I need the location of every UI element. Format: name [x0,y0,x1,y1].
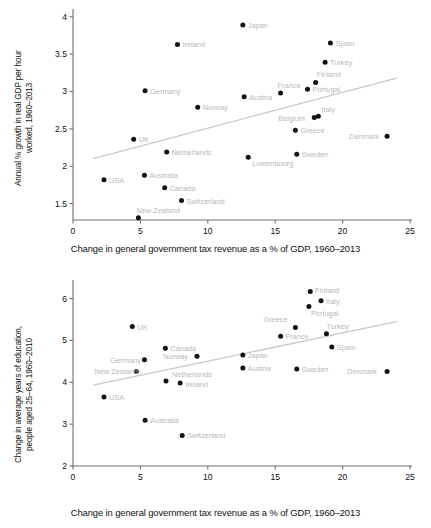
scatter-plot-top: 1.522.533.540510152025USAUKNew ZealandAu… [0,0,431,264]
data-point-label: Finland [317,70,341,79]
x-tick-label: 0 [71,472,76,482]
data-point [143,88,148,93]
data-point-label: Portugal [313,85,341,94]
data-point [130,324,135,329]
data-point [294,152,299,157]
data-point-label: Australia [150,416,180,425]
data-point [163,346,168,351]
y-tick-label: 4 [62,377,67,387]
x-axis-label-top: Change in general government tax revenue… [0,243,431,254]
data-point-label: Ireland [182,40,205,49]
data-point-label: Canada [170,184,197,193]
data-point-label: Norway [203,103,228,112]
data-point-label: Turkey [330,58,353,67]
x-tick-label: 20 [338,472,348,482]
data-point [385,134,390,139]
x-tick-label: 0 [71,226,76,236]
data-point [179,198,184,203]
scatter-plot-bottom: 234560510152025USAUKNew ZealandGermanyAu… [0,264,431,528]
data-point [143,418,148,423]
data-point [319,298,324,303]
data-point [329,345,334,350]
data-point-label: Denmark [349,132,379,141]
data-point [195,354,200,359]
y-tick-label: 1.5 [55,199,67,209]
data-point-label: France [286,332,309,341]
data-point [131,137,136,142]
data-point [293,128,298,133]
data-point [102,177,107,182]
data-point [240,366,245,371]
data-point [293,325,298,330]
data-point-label: Finland [315,286,339,295]
x-tick-label: 10 [203,226,213,236]
data-point [278,90,283,95]
data-point-label: Austria [248,364,272,373]
data-point-label: Greece [300,126,324,135]
data-point-label: USA [109,393,124,402]
data-point-label: Italy [321,105,335,114]
x-tick-label: 5 [138,226,143,236]
x-axis-label-bottom: Change in general government tax revenue… [0,507,431,518]
data-point [195,105,200,110]
x-tick-label: 10 [203,472,213,482]
y-tick-label: 3 [62,86,67,96]
data-point [164,379,169,384]
y-tick-label: 3 [62,419,67,429]
y-tick-label: 2 [62,161,67,171]
x-tick-label: 15 [270,226,280,236]
data-point [142,173,147,178]
data-point-label: Spain [337,343,356,352]
data-point-label: USA [109,176,124,185]
data-point-label: Netherlands [172,370,212,379]
data-point-label: Germany [150,87,181,96]
data-point-label: Sweden [302,150,329,159]
data-point-label: New Zealand [94,367,138,376]
x-tick-label: 25 [405,226,415,236]
data-point-label: Australia [149,171,179,180]
data-point [316,114,321,119]
data-point [175,42,180,47]
data-point-label: Italy [326,297,340,306]
data-point-label: Portugal [311,309,339,318]
data-point-label: UK [137,323,147,332]
data-point-label: UK [139,135,149,144]
data-point-label: Switzerland [187,431,225,440]
data-point [246,155,251,160]
y-tick-label: 5 [62,335,67,345]
data-point-label: France [278,81,301,90]
data-point [294,366,299,371]
y-tick-label: 6 [62,294,67,304]
y-tick-label: 2.5 [55,124,67,134]
data-point [136,215,141,220]
chart-top: Annual % growth in real GDP per hour wor… [0,0,431,264]
data-point [162,185,167,190]
data-point-label: Sweden [302,365,329,374]
data-point-label: Austria [249,93,273,102]
y-tick-label: 2 [62,461,67,471]
data-point-label: Germany [110,356,141,365]
data-point [180,433,185,438]
data-point [324,331,329,336]
data-point-label: Switzerland [187,197,225,206]
data-point [240,353,245,358]
data-point [164,149,169,154]
data-point [328,40,333,45]
data-point [305,87,310,92]
data-point [240,22,245,27]
data-point [385,369,390,374]
data-point-label: Belgium [278,114,305,123]
x-tick-label: 15 [270,472,280,482]
data-point-label: Denmark [347,367,377,376]
data-point-label: Spain [335,39,354,48]
data-point-label: New Zealand [136,206,180,215]
y-tick-label: 3.5 [55,49,67,59]
data-point [308,289,313,294]
y-tick-label: 4 [62,12,67,22]
data-point [178,381,183,386]
data-point-label: Japan [248,351,268,360]
data-point-label: Turkey [326,322,349,331]
data-point [323,60,328,65]
x-tick-label: 25 [405,472,415,482]
data-point-label: Greece [263,315,287,324]
